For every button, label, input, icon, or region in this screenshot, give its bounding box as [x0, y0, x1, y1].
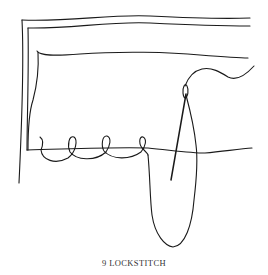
figure-caption: 9 LOCKSTITCH — [0, 258, 268, 268]
seam-line — [27, 148, 252, 153]
hem-left-edge — [28, 52, 38, 150]
lockstitch-illustration — [0, 0, 268, 250]
hem-top-edge — [37, 51, 248, 58]
thread-tail — [185, 66, 254, 86]
fabric-outer-top-edge — [22, 16, 250, 21]
fabric-outer-left-edge — [19, 20, 23, 183]
fabric-inner-top-edge — [28, 23, 250, 28]
needle-icon — [171, 94, 186, 180]
